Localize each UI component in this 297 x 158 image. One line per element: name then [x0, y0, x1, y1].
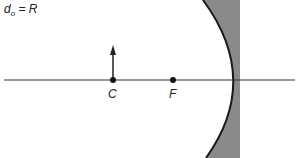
- center-label: C: [108, 88, 117, 100]
- focal-point: [170, 77, 176, 83]
- center-point: [110, 77, 116, 83]
- object-arrow-head-icon: [110, 45, 116, 55]
- focal-label: F: [169, 88, 176, 100]
- mirror-diagram: [0, 0, 297, 158]
- mirror-body: [203, 0, 240, 158]
